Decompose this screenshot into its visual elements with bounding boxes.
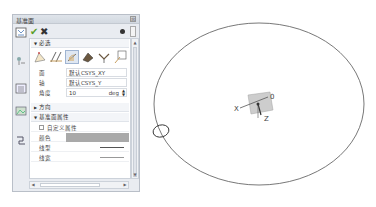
- expand-triangle-icon: ▼: [34, 115, 37, 120]
- settings-icon[interactable]: [15, 135, 27, 146]
- plane-by-points-icon[interactable]: [33, 50, 47, 64]
- axis-field-row: 轴 默认CSYS_Y: [31, 78, 129, 87]
- z-axis-label: Z: [264, 115, 269, 123]
- axis-label: 轴: [39, 79, 45, 87]
- axis-input[interactable]: 默认CSYS_Y: [66, 78, 127, 87]
- coordinate-system-glyph[interactable]: X Z 0: [234, 92, 274, 123]
- hscroll-thumb[interactable]: [40, 183, 100, 187]
- line-width-selector[interactable]: [66, 153, 129, 162]
- x-axis-label: X: [234, 105, 239, 113]
- plane-tangent-icon[interactable]: [113, 50, 127, 64]
- section-required-label: 必选: [39, 40, 51, 46]
- scroll-down-icon[interactable]: ▼: [132, 171, 138, 178]
- plane-type-selector: [33, 50, 129, 64]
- pin-icon[interactable]: [130, 26, 136, 37]
- color-swatch[interactable]: [66, 133, 129, 142]
- scroll-right-icon[interactable]: ▶: [122, 182, 128, 188]
- dialog-titlebar[interactable]: 基准面 ⊠: [13, 15, 139, 24]
- 3d-viewport[interactable]: X Z 0: [140, 0, 376, 207]
- custom-props-label: 自定义属性: [47, 124, 77, 132]
- line-width-label: 线宽: [39, 154, 51, 162]
- dialog-content: ▼必选 面 默认CSYS_XY: [29, 38, 131, 179]
- plane-input[interactable]: 默认CSYS_XY: [66, 68, 127, 77]
- scroll-left-icon[interactable]: ◀: [30, 182, 36, 188]
- dialog-title: 基准面: [16, 16, 34, 25]
- cancel-button[interactable]: ✖: [40, 26, 50, 37]
- plane-by-lines-icon[interactable]: [49, 50, 63, 64]
- datum-plane-dialog: 基准面 ⊠ ✔ ✖ ▼必选: [12, 14, 140, 192]
- datum-plane-icon[interactable]: [15, 27, 27, 38]
- section-required[interactable]: ▼必选: [31, 39, 129, 48]
- section-properties[interactable]: ▼基准面属性: [31, 113, 129, 122]
- small-ellipse: [152, 123, 171, 139]
- color-row: 颜色: [31, 133, 129, 142]
- custom-props-row: 自定义属性: [31, 123, 129, 132]
- angle-input[interactable]: 10 deg ▲▼: [66, 88, 127, 97]
- plane-label: 面: [39, 69, 45, 77]
- angle-spinner[interactable]: ▲▼: [122, 89, 125, 97]
- line-type-row: 线型: [31, 143, 129, 152]
- scroll-up-icon[interactable]: ▲: [132, 39, 138, 46]
- angle-value: 10: [69, 90, 76, 96]
- angle-label: 角度: [39, 89, 51, 97]
- line-type-label: 线型: [39, 144, 51, 152]
- angle-field-row: 角度 10 deg ▲▼: [31, 88, 129, 97]
- horizontal-scrollbar[interactable]: ◀ ▶: [29, 181, 129, 189]
- dialog-toolbar: ✔ ✖: [29, 26, 137, 37]
- close-icon[interactable]: ⊠: [130, 16, 136, 22]
- reference-icon[interactable]: [15, 55, 27, 66]
- left-icon-strip: [13, 25, 29, 179]
- ok-button[interactable]: ✔: [30, 26, 40, 37]
- vertical-scrollbar[interactable]: ▲ ▼: [131, 38, 139, 179]
- plane-offset-icon[interactable]: [81, 50, 95, 64]
- scroll-thumb[interactable]: [133, 47, 137, 177]
- line-width-row: 线宽: [31, 153, 129, 162]
- origin-marker: 0: [270, 93, 274, 101]
- plane-by-angle-icon[interactable]: [65, 50, 79, 64]
- image-icon[interactable]: [15, 105, 27, 116]
- section-direction-label: 方向: [39, 104, 51, 110]
- angle-unit: deg: [109, 89, 119, 97]
- expand-triangle-icon: ▼: [34, 41, 37, 46]
- plane-field-row: 面 默认CSYS_XY: [31, 68, 129, 77]
- color-label: 颜色: [39, 134, 51, 142]
- collapse-triangle-icon: ▶: [34, 105, 37, 110]
- section-properties-label: 基准面属性: [39, 114, 69, 120]
- list-icon[interactable]: [15, 83, 27, 94]
- line-type-selector[interactable]: [66, 143, 129, 152]
- custom-props-checkbox[interactable]: [39, 125, 44, 130]
- preview-icon[interactable]: [120, 29, 125, 34]
- plane-normal-icon[interactable]: [97, 50, 111, 64]
- section-direction[interactable]: ▶方向: [31, 103, 129, 112]
